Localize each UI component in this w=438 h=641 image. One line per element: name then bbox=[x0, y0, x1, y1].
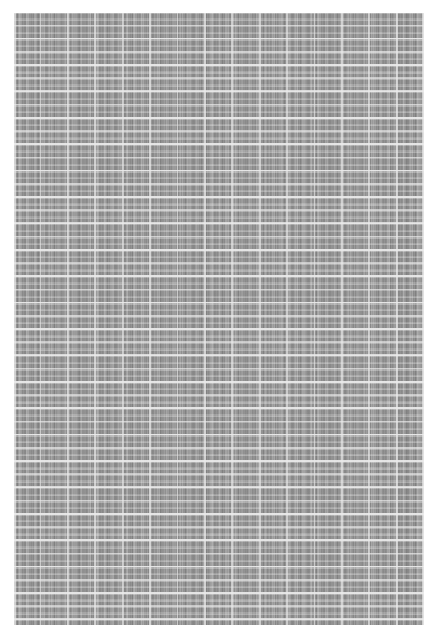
downscale-softening-overlay bbox=[14, 13, 424, 625]
tabular-content-block bbox=[14, 13, 424, 625]
document-page bbox=[0, 0, 438, 641]
